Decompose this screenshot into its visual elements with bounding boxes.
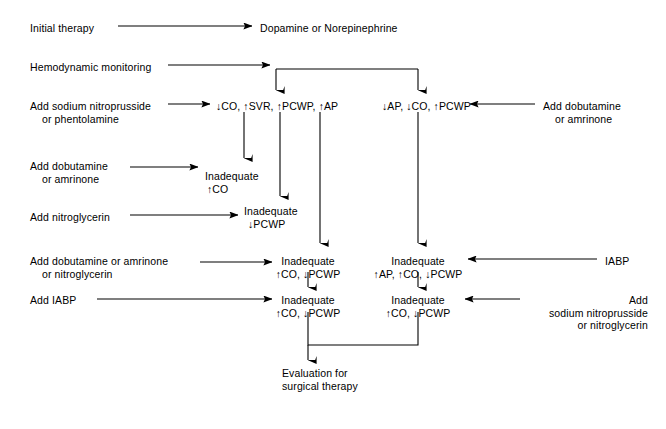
node-line: Initial therapy [30,22,94,35]
flowchart-diagram: Initial therapyDopamine or Norepinephrin… [0,0,666,429]
node-add-nitroglycerin: Add nitroglycerin [30,211,110,224]
node-line: Inadequate [244,205,298,218]
node-line: or amrinone [30,173,108,186]
node-line: Add nitroglycerin [30,211,110,224]
node-iabp-right: IABP [605,255,629,268]
node-inadequate-co: Inadequate↑CO [205,170,259,195]
node-line: or nitroglycerin [30,268,168,281]
node-line: sodium nitroprusside [549,307,648,320]
node-line: Inadequate [205,170,259,183]
node-dopamine-norepinephrine: Dopamine or Norepinephrine [260,22,398,35]
node-line: Dopamine or Norepinephrine [260,22,398,35]
node-line: ↓PCWP [244,218,298,231]
node-add-sodium-nitroprusside-or-nitroglycerin: Addsodium nitroprussideor nitroglycerin [549,294,648,332]
node-line: surgical therapy [282,380,358,393]
node-line: Add dobutamine or amrinone [30,255,168,268]
node-line: Add dobutamine [543,100,621,113]
node-line: Inadequate [276,294,341,307]
node-line: Inadequate [374,255,463,268]
node-line: ↑CO, ↓PCWP [386,307,451,320]
node-inadequate-ap-co-pcwp: Inadequate↑AP, ↑CO, ↓PCWP [374,255,463,280]
node-add-sodium-nitroprusside: Add sodium nitroprussideor phentolamine [30,100,151,125]
node-line: ↑CO, ↓PCWP [276,307,341,320]
node-add-dobutamine-amrinone-right: Add dobutamineor amrinone [543,100,621,125]
node-line: Hemodynamic monitoring [30,61,151,74]
node-inadequate-co-pcwp-b: Inadequate↑CO, ↓PCWP [276,294,341,319]
node-evaluation-surgical: Evaluation forsurgical therapy [282,367,358,392]
node-hemodynamic-monitoring: Hemodynamic monitoring [30,61,151,74]
node-line: IABP [605,255,629,268]
node-initial-therapy: Initial therapy [30,22,94,35]
node-line: Evaluation for [282,367,358,380]
node-line: Inadequate [386,294,451,307]
node-line: Add dobutamine [30,160,108,173]
node-line: ↑AP, ↑CO, ↓PCWP [374,268,463,281]
node-line: ↑CO [205,183,259,196]
node-add-dobutamine-or-nitroglycerin: Add dobutamine or amrinoneor nitroglycer… [30,255,168,280]
node-branch-right-state: ↓AP, ↓CO, ↑PCWP [382,100,471,113]
node-line: or phentolamine [30,113,151,126]
node-line: Add IABP [30,294,76,307]
node-inadequate-co-pcwp-a: Inadequate↑CO, ↓PCWP [276,255,341,280]
node-line: or amrinone [543,113,621,126]
node-add-dobutamine-amrinone-left: Add dobutamineor amrinone [30,160,108,185]
node-line: or nitroglycerin [549,319,648,332]
node-line: ↓AP, ↓CO, ↑PCWP [382,100,471,113]
node-line: ↑CO, ↓PCWP [276,268,341,281]
node-branch-left-state: ↓CO, ↑SVR, ↑PCWP, ↑AP [216,100,338,113]
node-line: Inadequate [276,255,341,268]
node-add-iabp-left: Add IABP [30,294,76,307]
node-line: Add [549,294,648,307]
node-inadequate-pcwp: Inadequate↓PCWP [244,205,298,230]
node-line: Add sodium nitroprusside [30,100,151,113]
node-inadequate-co-pcwp-c: Inadequate↑CO, ↓PCWP [386,294,451,319]
node-line: ↓CO, ↑SVR, ↑PCWP, ↑AP [216,100,338,113]
